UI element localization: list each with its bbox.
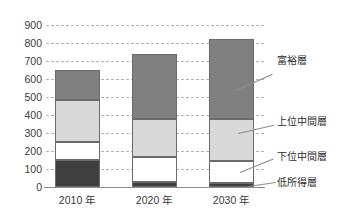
x-tick-label-2020: 2020 年 — [114, 192, 194, 207]
x-tick-label-2030: 2030 年 — [191, 192, 271, 207]
y-tick-label: 600 — [2, 74, 42, 85]
gridline-900 — [46, 25, 264, 26]
y-tick-label: 700 — [2, 56, 42, 67]
plot-area: 900 800 700 600 500 400 300 200 — [0, 0, 338, 219]
stacked-bar-chart: 900 800 700 600 500 400 300 200 — [0, 0, 338, 219]
y-tick-label: 800 — [2, 38, 42, 49]
bar-segment-lower-middle-2010[interactable] — [55, 142, 100, 160]
legend-label-upper-middle: 上位中間層 — [277, 117, 327, 127]
y-tick-label: 900 — [2, 20, 42, 31]
axis-baseline — [44, 187, 265, 188]
bar-segment-upper-middle-2030[interactable] — [209, 119, 254, 161]
legend-label-wealthy: 富裕層 — [277, 56, 307, 66]
bar-segment-wealthy-2030[interactable] — [209, 39, 254, 119]
legend-label-lower-middle: 下位中間層 — [277, 152, 327, 162]
bar-segment-wealthy-2010[interactable] — [55, 70, 100, 100]
bar-segment-upper-middle-2010[interactable] — [55, 100, 100, 142]
x-tick-label-2010: 2010 年 — [37, 192, 117, 207]
y-tick-label: 200 — [2, 146, 42, 157]
y-tick-label: 400 — [2, 110, 42, 121]
bar-segment-upper-middle-2020[interactable] — [132, 119, 177, 158]
bar-segment-low-income-2010[interactable] — [55, 160, 100, 187]
bar-segment-lower-middle-2030[interactable] — [209, 161, 254, 184]
bar-segment-wealthy-2020[interactable] — [132, 54, 177, 119]
bar-segment-low-income-2020[interactable] — [132, 182, 177, 187]
y-tick-label: 300 — [2, 128, 42, 139]
y-tick-label: 500 — [2, 92, 42, 103]
bar-segment-lower-middle-2020[interactable] — [132, 157, 177, 181]
legend-label-low-income: 低所得層 — [277, 178, 317, 188]
y-tick-label: 100 — [2, 164, 42, 175]
y-tick-label: 0 — [2, 182, 42, 193]
